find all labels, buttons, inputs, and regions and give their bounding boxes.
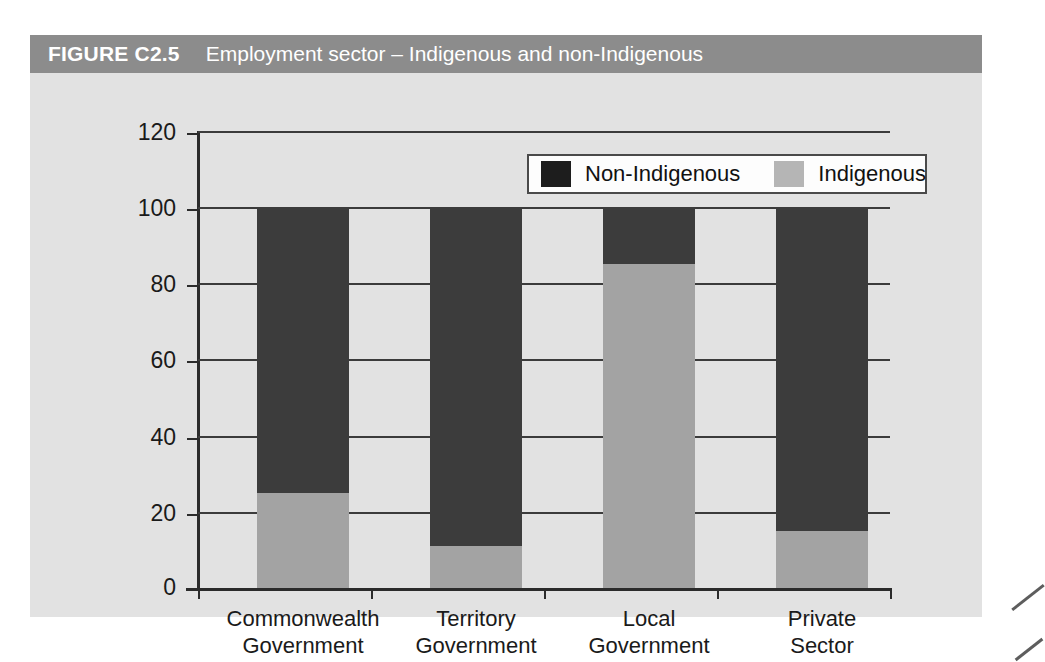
legend-label-indigenous: Indigenous: [818, 161, 926, 187]
figure-number-label: FIGURE C2.5: [48, 42, 180, 66]
y-tick-label-60: 60: [56, 347, 176, 374]
figure-caption-label: Employment sector – Indigenous and non-I…: [206, 42, 703, 66]
bar-segment-non-indigenous[interactable]: [776, 207, 868, 531]
figure-title-bar: FIGURE C2.5 Employment sector – Indigeno…: [30, 35, 982, 73]
x-tick-2: [544, 588, 546, 599]
gridline-120: 120: [198, 131, 890, 133]
y-tick-100: [187, 209, 198, 211]
bar-segment-indigenous[interactable]: [603, 264, 695, 588]
bar-segment-indigenous[interactable]: [430, 546, 522, 588]
legend-label-non-indigenous: Non-Indigenous: [585, 161, 740, 187]
scan-artifact-mark: [1015, 638, 1044, 661]
x-category-label-private-sector: Private Sector: [712, 605, 932, 659]
y-tick-80: [187, 285, 198, 287]
plot-frame: 120 100 80 60 40 20: [198, 131, 890, 588]
y-tick-label-100: 100: [56, 195, 176, 222]
legend-entry-indigenous[interactable]: Indigenous: [774, 161, 926, 187]
y-tick-0: [187, 588, 198, 590]
y-tick-label-80: 80: [56, 271, 176, 298]
bar-group-private-sector[interactable]: [776, 207, 868, 588]
legend-swatch-indigenous: [774, 161, 804, 187]
x-axis-line: [186, 588, 892, 591]
y-tick-label-0: 0: [56, 574, 176, 601]
x-tick-1: [371, 588, 373, 599]
y-tick-label-120: 120: [56, 119, 176, 146]
y-tick-20: [187, 514, 198, 516]
bar-segment-non-indigenous[interactable]: [257, 207, 349, 493]
y-tick-label-40: 40: [56, 424, 176, 451]
y-tick-label-20: 20: [56, 500, 176, 527]
legend-entry-non-indigenous[interactable]: Non-Indigenous: [541, 161, 740, 187]
bar-group-local-government[interactable]: [603, 207, 695, 588]
y-tick-120: [187, 133, 198, 135]
y-tick-40: [187, 438, 198, 440]
bar-segment-indigenous[interactable]: [776, 531, 868, 588]
x-category-line1: Private: [712, 605, 932, 632]
scan-artifact-mark: [1011, 584, 1044, 611]
x-category-line2: Sector: [712, 632, 932, 659]
x-tick-4: [890, 588, 892, 599]
figure-panel: FIGURE C2.5 Employment sector – Indigeno…: [30, 35, 982, 617]
y-tick-60: [187, 361, 198, 363]
chart-legend: Non-Indigenous Indigenous: [527, 154, 927, 194]
bar-segment-non-indigenous[interactable]: [603, 207, 695, 264]
bar-segment-non-indigenous[interactable]: [430, 207, 522, 546]
bar-segment-indigenous[interactable]: [257, 493, 349, 588]
bar-group-territory-government[interactable]: [430, 207, 522, 588]
legend-swatch-non-indigenous: [541, 161, 571, 187]
chart-plot-area: 120 100 80 60 40 20: [30, 73, 982, 617]
x-tick-3: [717, 588, 719, 599]
bar-group-commonwealth-government[interactable]: [257, 207, 349, 588]
x-tick-0: [198, 588, 200, 599]
